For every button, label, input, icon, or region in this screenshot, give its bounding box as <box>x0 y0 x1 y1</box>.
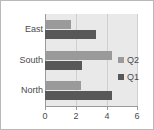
legend-item-q1: Q1 <box>118 70 152 83</box>
bar-south-q2 <box>45 51 112 60</box>
tick-label-6: 6 <box>134 111 139 121</box>
bar-group-east <box>45 14 138 45</box>
category-label-east: East <box>3 14 43 45</box>
bar-east-q1 <box>45 30 96 39</box>
tick-mark-2 <box>76 106 77 110</box>
chart-legend: Q2 Q1 <box>118 53 152 87</box>
tick-mark-6 <box>137 106 138 110</box>
bar-north-q1 <box>45 91 112 100</box>
legend-swatch-q1 <box>118 74 124 80</box>
bar-east-q2 <box>45 20 71 29</box>
legend-label-q1: Q1 <box>127 72 139 82</box>
tick-mark-4 <box>107 106 108 110</box>
legend-swatch-q2 <box>118 57 124 63</box>
tick-label-2: 2 <box>73 111 78 121</box>
tick-label-4: 4 <box>104 111 109 121</box>
category-axis-labels: East South North <box>3 14 43 106</box>
tick-label-0: 0 <box>42 111 47 121</box>
category-label-south: South <box>3 45 43 76</box>
category-label-north: North <box>3 75 43 106</box>
x-axis: 0 2 4 6 <box>45 106 138 126</box>
bar-chart-figure: East South North 0 2 4 6 Q2 Q1 <box>0 0 154 130</box>
x-axis-line <box>45 106 138 107</box>
legend-item-q2: Q2 <box>118 53 152 66</box>
bar-north-q2 <box>45 81 81 90</box>
tick-mark-0 <box>45 106 46 110</box>
legend-label-q2: Q2 <box>127 55 139 65</box>
bar-south-q1 <box>45 61 82 70</box>
